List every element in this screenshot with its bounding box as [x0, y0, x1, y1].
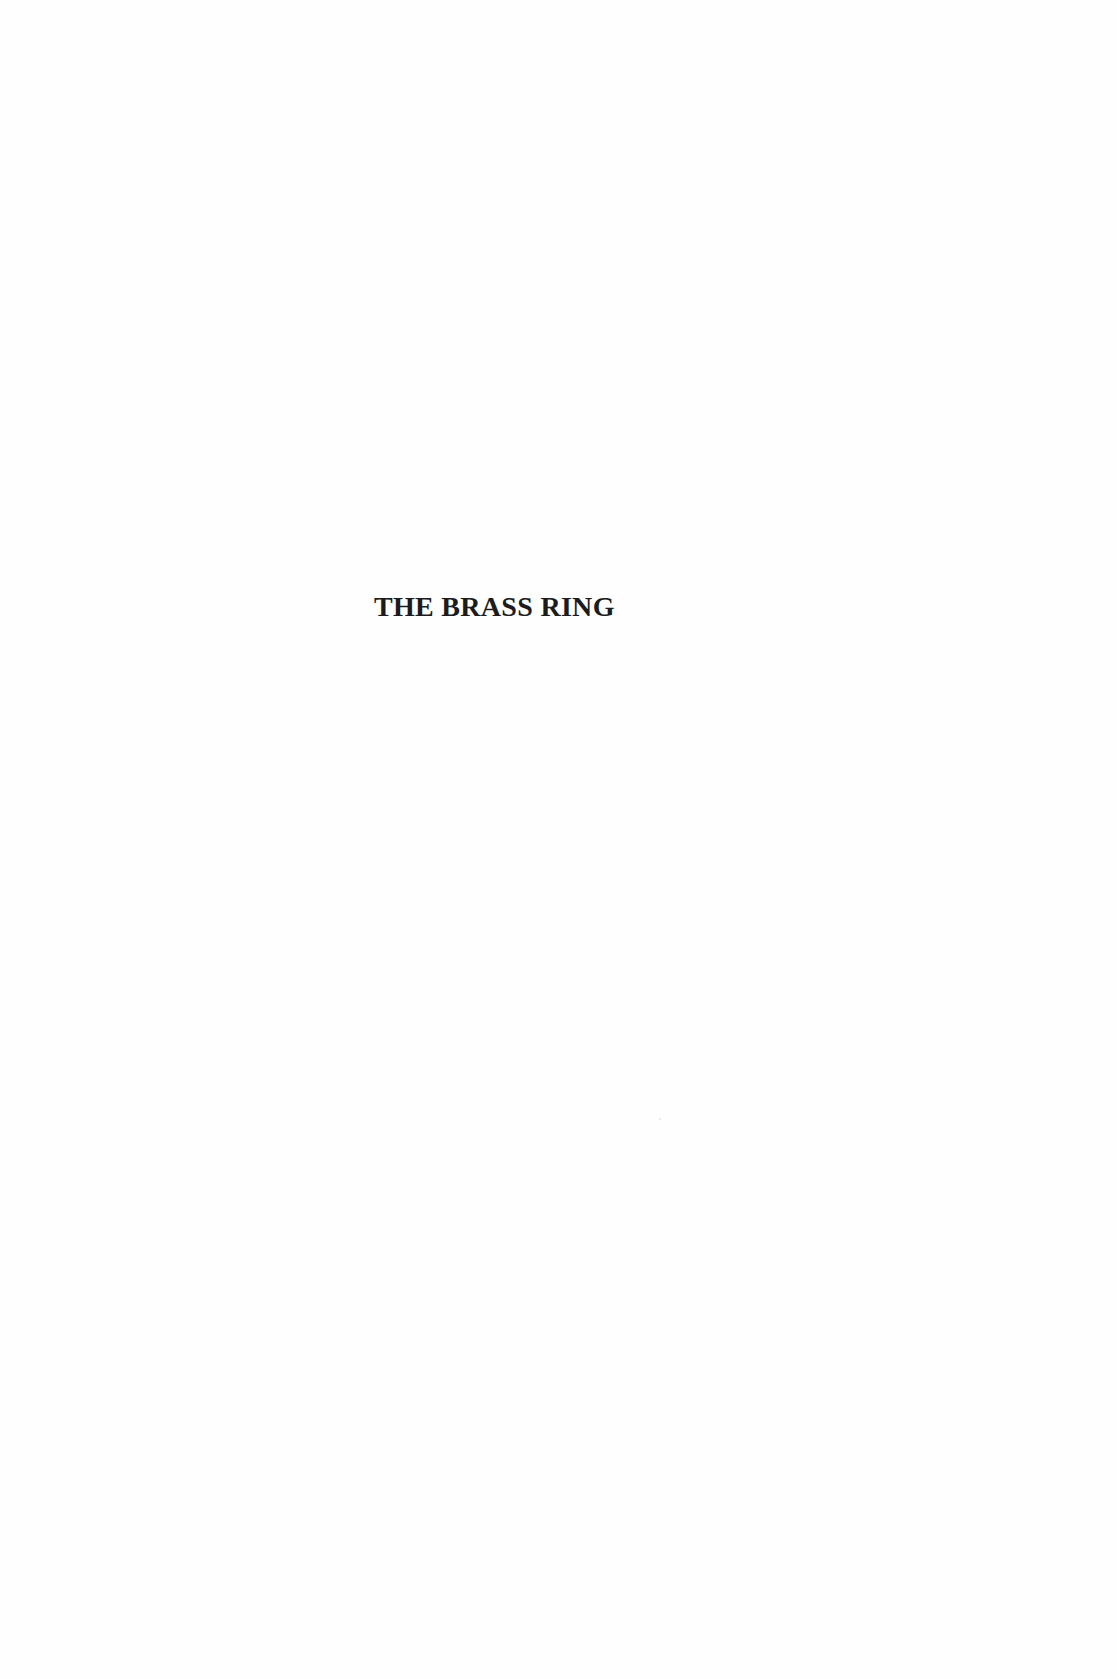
book-title: THE BRASS RING — [374, 590, 615, 624]
scan-speck — [659, 1118, 661, 1120]
book-page: THE BRASS RING — [0, 0, 1117, 1679]
